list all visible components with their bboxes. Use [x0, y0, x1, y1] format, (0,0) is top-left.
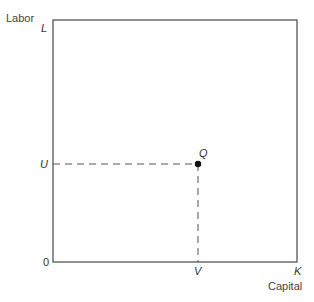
label-k: K [294, 265, 301, 277]
label-l: L [41, 22, 47, 34]
label-q: Q [199, 147, 208, 159]
box-frame [53, 20, 297, 262]
label-u: U [40, 158, 48, 170]
label-origin: 0 [43, 256, 49, 268]
point-q [195, 161, 201, 167]
x-axis-title: Capital [268, 280, 302, 292]
label-v: V [194, 265, 201, 277]
y-axis-title: Labor [6, 12, 34, 24]
